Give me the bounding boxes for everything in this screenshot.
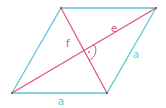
- label-diagonal-f: f: [66, 38, 70, 49]
- vertex-b: [106, 92, 108, 94]
- rhombus-diagram: a a e f: [0, 0, 166, 108]
- label-diagonal-e: e: [111, 23, 117, 34]
- vertex-c: [155, 7, 157, 9]
- diagonal-f: [61, 8, 107, 93]
- label-side-bottom: a: [58, 96, 64, 107]
- vertex-a: [11, 92, 13, 94]
- label-side-right: a: [133, 49, 139, 60]
- vertex-d: [60, 7, 62, 9]
- right-angle-dot: [88, 51, 90, 53]
